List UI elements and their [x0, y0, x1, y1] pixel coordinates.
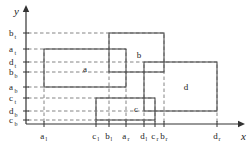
- ytick-label-base: c: [9, 115, 13, 125]
- ytick-label-c-t: ct: [9, 93, 17, 104]
- projection-dashed-lines: [28, 33, 217, 122]
- ytick-label-sub: t: [15, 99, 17, 105]
- ytick-label-a-t: at: [9, 44, 17, 55]
- axis-titles-layer: xy: [13, 5, 246, 142]
- ytick-label-sub: t: [15, 34, 17, 40]
- tick-labels-layer: btatdtbbabctdbcbalclblardlcrbrdr: [9, 28, 221, 142]
- xtick-label-d-l: dl: [140, 131, 147, 142]
- x-axis-title: x: [240, 130, 246, 142]
- xtick-label-c-l: cl: [92, 131, 99, 142]
- ytick-label-base: c: [9, 93, 13, 103]
- ytick-label-base: b: [9, 28, 14, 38]
- rectangle-c[interactable]: [96, 98, 155, 120]
- xtick-label-base: c: [92, 131, 96, 141]
- xtick-label-base: d: [213, 131, 218, 141]
- xtick-label-sub: r: [128, 136, 130, 142]
- xtick-label-base: c: [151, 131, 155, 141]
- y-axis-arrowhead: [23, 5, 29, 12]
- xtick-label-base: b: [160, 131, 165, 141]
- xtick-label-b-l: bl: [105, 131, 112, 142]
- xtick-label-base: b: [105, 131, 110, 141]
- xtick-label-sub: r: [219, 136, 221, 142]
- ytick-label-base: b: [9, 67, 14, 77]
- xtick-label-base: a: [40, 131, 44, 141]
- xtick-label-c-r: cr: [151, 131, 158, 142]
- ytick-label-base: d: [9, 57, 14, 67]
- ytick-label-sub: b: [15, 112, 18, 118]
- rectangles-layer: [44, 33, 217, 120]
- ytick-label-sub: b: [15, 88, 18, 94]
- ytick-label-base: a: [9, 44, 13, 54]
- ytick-label-sub: t: [15, 63, 17, 69]
- xtick-label-sub: l: [98, 136, 100, 142]
- xtick-label-sub: r: [157, 136, 159, 142]
- x-axis-arrowhead: [238, 121, 245, 127]
- xtick-label-a-l: al: [40, 131, 47, 142]
- rectangle-labels-layer: abcd: [83, 50, 189, 114]
- diagram-canvas: btatdtbbabctdbcbalclblardlcrbrdr abcd xy: [0, 0, 247, 154]
- rectangle-label-c: c: [134, 104, 138, 114]
- xtick-label-sub: r: [166, 136, 168, 142]
- rectangle-label-b: b: [137, 50, 142, 60]
- ytick-label-b-t: bt: [9, 28, 17, 39]
- rectangle-label-a: a: [83, 64, 87, 74]
- xtick-label-a-r: ar: [122, 131, 129, 142]
- ytick-label-sub: t: [15, 50, 17, 56]
- rectangle-interval-diagram: btatdtbbabctdbcbalclblardlcrbrdr abcd xy: [0, 0, 247, 154]
- xtick-label-sub: l: [146, 136, 148, 142]
- y-axis-title: y: [13, 5, 19, 17]
- xtick-label-base: d: [140, 131, 145, 141]
- xtick-label-d-r: dr: [213, 131, 220, 142]
- ytick-label-sub: b: [15, 121, 18, 127]
- ytick-label-b-b: bb: [9, 67, 18, 78]
- xtick-label-sub: l: [46, 136, 48, 142]
- rectangle-label-d: d: [184, 82, 189, 92]
- ytick-label-a-b: ab: [9, 82, 18, 93]
- tick-marks-layer: [23, 33, 217, 127]
- xtick-label-b-r: br: [160, 131, 167, 142]
- xtick-label-base: a: [122, 131, 126, 141]
- ytick-label-sub: b: [15, 73, 18, 79]
- ytick-label-base: a: [9, 82, 13, 92]
- xtick-label-sub: l: [111, 136, 113, 142]
